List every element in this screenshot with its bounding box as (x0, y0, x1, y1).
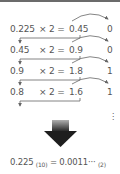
result: 0.45 (69, 24, 88, 34)
bit: 1 (107, 87, 113, 97)
result: 1.8 (69, 66, 83, 76)
operation: × 2 = (39, 45, 65, 55)
operation: × 2 = (39, 24, 65, 34)
binary-base: (2) (98, 161, 106, 168)
operand: 0.225 (10, 24, 35, 34)
bit: 0 (107, 45, 113, 55)
result: 1.6 (69, 87, 83, 97)
equals-sign: = (50, 157, 57, 167)
operand: 0.9 (10, 66, 24, 76)
bit: 0 (107, 24, 113, 34)
result: 0.9 (69, 45, 83, 55)
binary-value: 0.0011··· (59, 157, 95, 167)
operation: × 2 = (39, 66, 65, 76)
operand: 0.45 (10, 45, 29, 55)
continuation-dots: ⋮ (109, 115, 113, 119)
bit: 1 (107, 66, 113, 76)
operand: 0.8 (10, 87, 24, 97)
big-down-arrow-icon (44, 120, 77, 147)
conclusion: 0.225 (10) = 0.0011··· (2) (10, 157, 106, 170)
decimal-value: 0.225 (10, 157, 33, 167)
operation: × 2 = (39, 87, 65, 97)
decimal-base: (10) (36, 161, 48, 168)
